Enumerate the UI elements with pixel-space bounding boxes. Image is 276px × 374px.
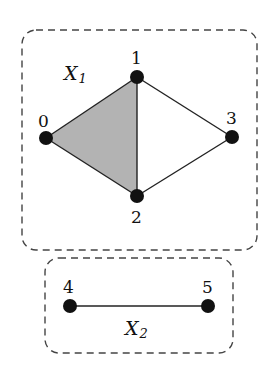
node-label-1: 1 [131,48,142,68]
complex-label-x2: X2 [123,317,148,341]
node-label-3: 3 [226,108,237,128]
node-4 [63,299,77,313]
simplicial-complex-diagram: 0 1 2 3 4 5 X1 X2 [0,0,276,374]
node-5 [201,299,215,313]
node-label-4: 4 [63,277,74,297]
node-label-2: 2 [131,207,142,227]
node-3 [225,130,239,144]
node-2 [130,189,144,203]
node-0 [39,131,53,145]
filled-triangle-0-1-2 [46,77,137,196]
edge-2-3 [137,137,232,196]
edge-1-3 [137,77,232,137]
complex-label-x1: X1 [62,62,87,86]
node-label-0: 0 [38,111,49,131]
node-label-5: 5 [202,277,213,297]
node-1 [130,70,144,84]
